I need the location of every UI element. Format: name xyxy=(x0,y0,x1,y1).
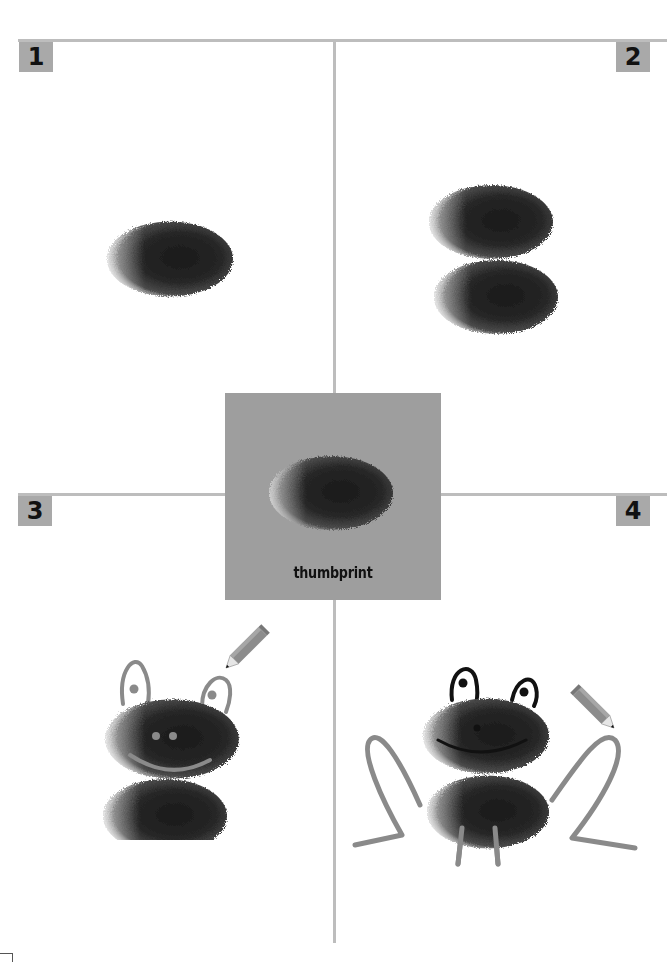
pencil-icon xyxy=(220,614,280,674)
thumbprint-step-2-bottom xyxy=(430,257,562,337)
thumbprint-example xyxy=(263,453,399,533)
step-number: 3 xyxy=(27,497,44,525)
step-badge-1: 1 xyxy=(19,42,53,72)
top-divider xyxy=(18,39,667,42)
step-number: 2 xyxy=(625,43,642,71)
thumbprint-label: thumbprint xyxy=(241,564,425,582)
step-number: 4 xyxy=(625,497,642,525)
thumbprint-step-2-top xyxy=(420,182,562,262)
vertical-divider-bottom xyxy=(333,600,336,943)
step-badge-3: 3 xyxy=(18,496,52,526)
pencil-icon xyxy=(560,674,620,734)
step-number: 1 xyxy=(28,43,45,71)
step-badge-2: 2 xyxy=(616,42,650,72)
crop-mark xyxy=(0,953,13,962)
thumbprint-example-box: thumbprint xyxy=(225,393,441,600)
thumbprint-step-1 xyxy=(104,218,236,300)
step-badge-4: 4 xyxy=(616,496,650,526)
vertical-divider-top xyxy=(333,40,336,393)
